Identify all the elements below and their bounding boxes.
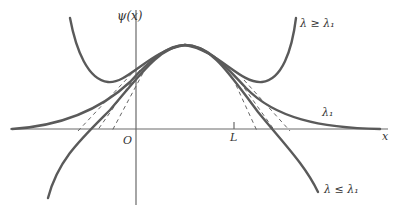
label-lambda-below: λ ≤ λ₁: [323, 183, 359, 196]
curve-lambda-above: [70, 18, 296, 82]
y-axis-label: ψ(x): [117, 9, 143, 23]
label-lambda-critical: λ₁: [321, 106, 333, 119]
eigenfunction-diagram: ψ(x) x O L λ ≥ λ₁ λ₁ λ ≤ λ₁: [0, 0, 397, 205]
x-axis-label: x: [382, 130, 389, 143]
label-lambda-above: λ ≥ λ₁: [299, 17, 335, 30]
tick-label-L: L: [229, 131, 237, 144]
origin-label: O: [123, 134, 132, 147]
